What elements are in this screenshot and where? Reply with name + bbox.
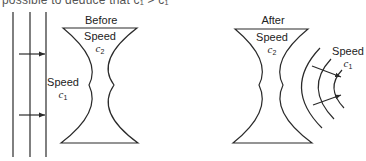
after-medium-speed-label: Speed c1 [330, 45, 366, 71]
after-lens-speed-label: Speed c2 [254, 31, 290, 57]
before-lens-label-text: Speed [82, 30, 118, 42]
after-medium-label-text: Speed [330, 45, 366, 57]
before-lens-speed-label: Speed c2 [82, 30, 118, 56]
after-medium-sub: 1 [348, 63, 352, 70]
before-medium-label-text: Speed [46, 76, 80, 88]
after-lens-sub: 2 [272, 49, 276, 56]
before-lens-sub: 2 [100, 48, 104, 55]
before-medium-speed-label: Speed c1 [46, 76, 80, 102]
before-medium-sub: 1 [63, 94, 67, 101]
ray-arrow-4 [313, 95, 341, 105]
curved-wavefront-1 [301, 48, 322, 128]
after-title: After [258, 14, 288, 26]
before-title: Before [85, 14, 115, 26]
after-lens-label-text: Speed [254, 31, 290, 43]
